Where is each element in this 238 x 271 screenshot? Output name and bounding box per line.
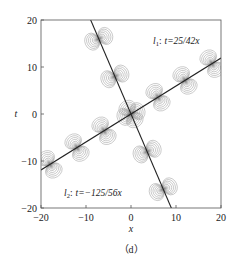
x-tick-label: 10 [171, 212, 181, 223]
y-tick-label: 10 [27, 62, 37, 73]
x-tick-label: −20 [33, 212, 49, 223]
contour-figure: 20 10 0 −10 −20 −20 −10 0 10 20 x t l1:t… [0, 0, 238, 271]
y-tick-label: 0 [32, 109, 37, 120]
x-tick-label: 20 [216, 212, 226, 223]
figure-caption: （d） [119, 244, 144, 255]
x-tick-labels: −20 −10 0 10 20 [33, 212, 226, 223]
x-tick-label: −10 [78, 212, 94, 223]
y-axis-label: t [15, 108, 18, 119]
l1-annotation: l1:t=25/42x [153, 36, 200, 47]
x-axis-label: x [128, 223, 134, 234]
y-tick-label: 20 [27, 15, 37, 26]
l2-annotation: l2:t=−125/56x [64, 188, 122, 199]
x-tick-label: 0 [129, 212, 134, 223]
y-tick-labels: 20 10 0 −10 −20 [21, 15, 37, 214]
y-tick-label: −10 [21, 156, 37, 167]
